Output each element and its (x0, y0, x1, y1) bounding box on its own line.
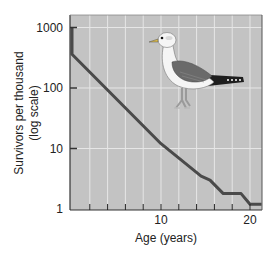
y-axis-title: Survivors per thousand (12, 51, 26, 174)
y-axis-subtitle: (log scale) (27, 85, 41, 140)
y-tick-label: 10 (50, 142, 64, 156)
y-tick-label: 1 (56, 202, 63, 216)
x-axis-title: Age (years) (135, 231, 197, 245)
x-tick-label: 10 (154, 213, 168, 227)
y-tick-label: 100 (43, 81, 63, 95)
x-tick-labels: 1020 (154, 213, 257, 227)
survivorship-chart: 1000100101 1020 Age (years) Survivors pe… (0, 0, 271, 254)
x-tick-label: 20 (243, 213, 257, 227)
y-tick-label: 1000 (36, 21, 63, 35)
